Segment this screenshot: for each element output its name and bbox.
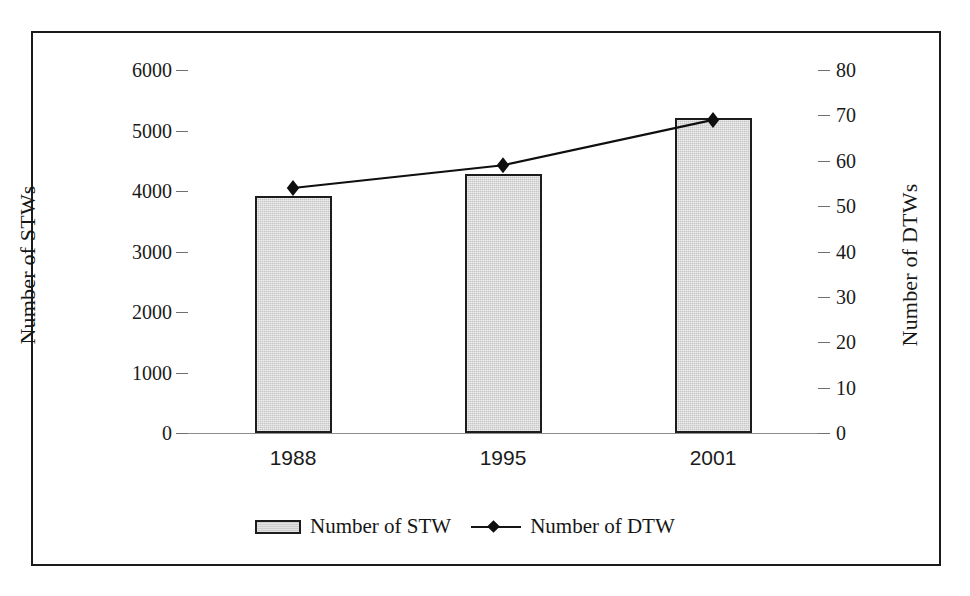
right-axis-tick-labels: 01020304050607080 — [836, 0, 896, 596]
right-axis-tickmark-60 — [818, 161, 830, 162]
left-axis-tick-4000: 4000 — [132, 181, 172, 201]
bar-2001 — [675, 118, 752, 433]
right-axis-tickmark-50 — [818, 206, 830, 207]
left-axis-tickmark-0 — [176, 433, 188, 434]
legend-label-stw: Number of STW — [310, 514, 451, 539]
right-axis-tickmark-20 — [818, 342, 830, 343]
right-axis-tick-50: 50 — [836, 196, 856, 216]
x-axis-label-1995: 1995 — [433, 446, 573, 470]
left-axis-title: Number of STWs — [15, 145, 41, 385]
left-axis-tick-1000: 1000 — [132, 363, 172, 383]
right-axis-tick-40: 40 — [836, 242, 856, 262]
x-axis-baseline — [188, 433, 818, 434]
legend-label-dtw: Number of DTW — [530, 514, 675, 539]
x-axis-label-1988: 1988 — [223, 446, 363, 470]
left-axis-tickmark-3000 — [176, 252, 188, 253]
x-axis-label-2001: 2001 — [643, 446, 783, 470]
left-axis-tick-6000: 6000 — [132, 60, 172, 80]
left-axis-tickmark-6000 — [176, 70, 188, 71]
left-axis-tickmark-4000 — [176, 191, 188, 192]
line-diamond-swatch-icon — [471, 520, 521, 534]
legend-item-dtw: Number of DTW — [471, 514, 675, 539]
right-axis-tick-60: 60 — [836, 151, 856, 171]
left-axis-tick-3000: 3000 — [132, 242, 172, 262]
right-axis-tickmark-0 — [818, 433, 830, 434]
left-axis-tickmark-1000 — [176, 373, 188, 374]
right-axis-tick-70: 70 — [836, 105, 856, 125]
right-axis-tick-80: 80 — [836, 60, 856, 80]
left-axis-tick-5000: 5000 — [132, 121, 172, 141]
right-axis-tickmark-40 — [818, 252, 830, 253]
bar-1995 — [465, 174, 542, 433]
left-axis-tick-0: 0 — [162, 423, 172, 443]
right-axis-tick-10: 10 — [836, 378, 856, 398]
right-axis-tickmark-80 — [818, 70, 830, 71]
chart-legend: Number of STW Number of DTW — [255, 514, 675, 539]
bar-swatch-icon — [255, 520, 301, 534]
right-axis-tick-0: 0 — [836, 423, 846, 443]
right-axis-title: Number of DTWs — [897, 145, 923, 385]
right-axis-tick-30: 30 — [836, 287, 856, 307]
right-axis-tickmark-30 — [818, 297, 830, 298]
legend-item-stw: Number of STW — [255, 514, 451, 539]
chart-figure: 0100020003000400050006000 01020304050607… — [0, 0, 970, 596]
left-axis-tick-2000: 2000 — [132, 302, 172, 322]
left-axis-tickmark-2000 — [176, 312, 188, 313]
left-axis-tickmark-5000 — [176, 131, 188, 132]
right-axis-tick-20: 20 — [836, 332, 856, 352]
bar-1988 — [255, 196, 332, 433]
right-axis-tickmark-10 — [818, 388, 830, 389]
right-axis-tickmark-70 — [818, 115, 830, 116]
